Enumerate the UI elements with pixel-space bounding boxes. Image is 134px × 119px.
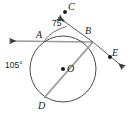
ray-B-to-E [93,42,124,68]
label-point-e: E [112,48,118,58]
label-point-d: D [38,101,45,111]
label-center-o: O [67,64,74,74]
label-point-b: B [85,26,91,36]
angle-arc-75 [45,27,67,41]
center-point-dot [61,67,65,71]
label-angle-105: 105° [5,61,23,70]
label-angle-75: 75° [52,19,65,28]
label-point-a: A [36,30,42,40]
label-point-c: C [68,2,75,12]
geometry-figure: A B C D E O 75° 105° [0,0,134,119]
point-dot-c [63,10,67,14]
